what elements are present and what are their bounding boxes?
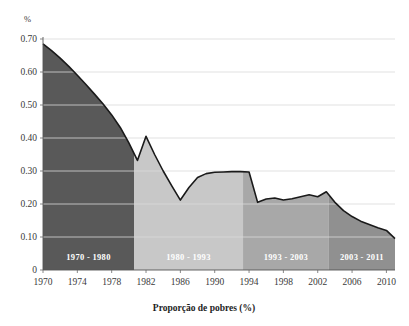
y-tick-label: 0.20 <box>20 199 37 209</box>
y-tick-label: 0.50 <box>20 100 37 110</box>
y-tick-label: 0 <box>32 265 37 275</box>
period-band-fills <box>43 34 395 270</box>
x-axis-title: Proporção de pobres (%) <box>153 303 255 314</box>
band-fill-3 <box>243 34 329 270</box>
x-tick-label: 2010 <box>377 277 396 287</box>
x-tick-label: 1974 <box>68 277 87 287</box>
x-tick-label: 1982 <box>137 277 156 287</box>
poverty-area-chart: 0.700.600.500.400.300.200.100 1970197419… <box>0 0 409 326</box>
y-tick-label: 0.40 <box>20 133 37 143</box>
band-label-1: 1970 - 1980 <box>66 252 110 262</box>
x-tick-label: 1990 <box>205 277 224 287</box>
band-fill-4 <box>329 34 395 270</box>
y-axis-unit-label: % <box>24 14 31 24</box>
band-label-2: 1980 - 1993 <box>166 252 210 262</box>
x-axis-tick-labels: 1970197419781982198619901994199820022006… <box>34 277 397 287</box>
x-tick-label: 2002 <box>308 277 327 287</box>
band-label-4: 2003 - 2011 <box>340 252 384 262</box>
x-tick-label: 1994 <box>240 277 259 287</box>
y-tick-label: 0.60 <box>20 67 37 77</box>
x-tick-label: 1998 <box>274 277 293 287</box>
x-tick-label: 1978 <box>102 277 121 287</box>
y-tick-label: 0.70 <box>20 34 37 44</box>
y-tick-label: 0.10 <box>20 232 37 242</box>
y-tick-label: 0.30 <box>20 166 37 176</box>
band-label-3: 1993 - 2003 <box>264 252 308 262</box>
chart-canvas: 0.700.600.500.400.300.200.100 1970197419… <box>0 0 409 326</box>
band-fill-2 <box>134 34 243 270</box>
x-tick-label: 1970 <box>34 277 53 287</box>
x-tick-label: 2006 <box>343 277 362 287</box>
band-fill-1 <box>43 34 134 270</box>
x-tick-label: 1986 <box>171 277 190 287</box>
y-axis-tick-labels: 0.700.600.500.400.300.200.100 <box>20 34 37 275</box>
